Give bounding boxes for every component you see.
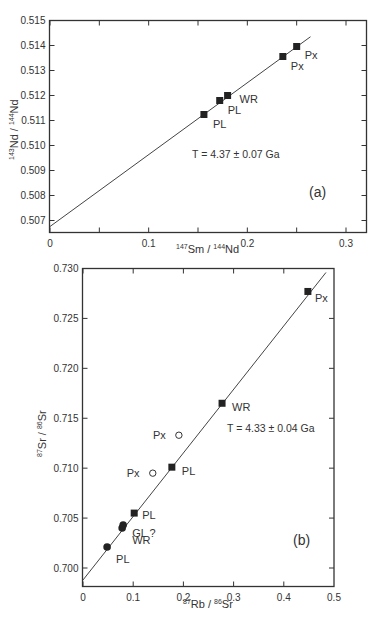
circle-marker-icon [103, 543, 111, 551]
point-label: Px [291, 60, 304, 72]
y-tick-label: 0.720 [53, 363, 78, 374]
x-tick-label: 0.1 [126, 592, 140, 603]
x-tick-label: 0 [80, 592, 86, 603]
x-label-sup2: 144 [213, 243, 225, 250]
x-tick-label: 0 [47, 238, 53, 249]
open-circle-marker-icon [150, 470, 156, 476]
isochron-line-a [50, 37, 310, 227]
age-annotation-a: T = 4.37 ± 0.07 Ga [192, 148, 280, 160]
square-marker-icon [219, 400, 226, 407]
data-point [219, 400, 226, 407]
y-tick-label: 0.725 [53, 313, 78, 324]
x-tick-label: 0.1 [142, 238, 156, 249]
panel-a: 0.5070.5080.5090.5100.5110.5120.5130.514… [8, 15, 367, 255]
y-tick-label: 0.511 [21, 115, 46, 126]
open-circle-marker-icon [176, 432, 182, 438]
y-tick-label: 0.512 [20, 90, 45, 101]
data-point [103, 543, 111, 551]
y-label-part1: Sr / [36, 429, 48, 449]
x-tick-label: 0.5 [327, 592, 341, 603]
y-axis-label-b: 87Sr / 86Sr [36, 410, 48, 457]
age-annotation-b: T = 4.33 ± 0.04 Ga [227, 422, 315, 434]
square-marker-icon [168, 464, 175, 471]
point-label: PL [228, 104, 241, 116]
panel-label-a: (a) [309, 184, 326, 200]
y-tick-label: 0.510 [20, 140, 45, 151]
x-label-part2: Sr [222, 598, 233, 610]
y-tick-label: 0.509 [20, 165, 45, 176]
y-tick-label: 0.705 [53, 513, 78, 524]
point-label: Px [305, 49, 318, 61]
y-axis-label-a: 143Nd / 144Nd [8, 99, 20, 160]
square-marker-icon [216, 97, 223, 104]
x-label-sup1: 147 [176, 243, 188, 250]
x-axis-label-a: 147Sm / 144Nd [176, 243, 239, 255]
y-label-sup1: 87 [36, 449, 43, 457]
x-label-part2: Nd [225, 243, 239, 255]
y-label-part1: Nd / [8, 125, 20, 148]
x-tick-label: 0.4 [277, 592, 291, 603]
square-marker-icon [279, 53, 286, 60]
data-point [224, 92, 231, 99]
data-point [279, 53, 286, 60]
point-label: PL [142, 509, 155, 521]
point-label: PL [182, 465, 195, 477]
y-tick-label: 0.700 [53, 563, 78, 574]
point-label: PL [116, 553, 129, 565]
data-point [168, 464, 175, 471]
y-tick-label: 0.715 [53, 413, 78, 424]
square-marker-icon [224, 92, 231, 99]
y-label-part2: Sr [36, 410, 48, 421]
y-tick-label: 0.514 [20, 40, 45, 51]
y-label-part2: Nd [8, 99, 20, 113]
point-label: Px [153, 429, 166, 441]
point-label: Px [127, 467, 140, 479]
point-label: GL ? [132, 527, 155, 539]
data-point [176, 432, 182, 438]
data-point [216, 97, 223, 104]
y-tick-label: 0.730 [53, 263, 78, 274]
x-label-part1: Sm / [188, 243, 214, 255]
data-point [150, 470, 156, 476]
data-point [119, 521, 127, 529]
x-axis-label-b: 87Rb / 86Sr [183, 598, 233, 610]
point-label: WR [240, 93, 258, 105]
square-marker-icon [304, 288, 311, 295]
x-tick-label: 0.2 [240, 238, 254, 249]
data-point [293, 43, 300, 50]
square-marker-icon [200, 111, 207, 118]
y-axis-ticks-b: 0.7000.7050.7100.7150.7200.7250.730 [53, 263, 334, 574]
x-label-sup2: 86 [214, 598, 222, 605]
square-marker-icon [293, 43, 300, 50]
point-label: PL [213, 118, 226, 130]
plot-frame-a [50, 21, 367, 233]
panel-label-b: (b) [293, 532, 310, 548]
x-tick-label: 0.3 [339, 238, 353, 249]
data-point [131, 510, 138, 517]
y-tick-label: 0.515 [20, 15, 45, 26]
figure: 0.5070.5080.5090.5100.5110.5120.5130.514… [0, 0, 384, 628]
point-label: WR [232, 401, 250, 413]
y-label-sup2: 144 [8, 113, 15, 125]
data-points-a: PLPLWRPxPx [200, 43, 318, 130]
y-tick-label: 0.710 [53, 463, 78, 474]
panel-b: 0.7000.7050.7100.7150.7200.7250.730 00.1… [36, 263, 341, 610]
point-label: Px [315, 292, 328, 304]
circle-marker-icon [119, 521, 127, 529]
y-tick-label: 0.508 [20, 190, 45, 201]
y-tick-label: 0.507 [20, 215, 45, 226]
x-label-part1: Rb / [191, 598, 214, 610]
square-marker-icon [131, 510, 138, 517]
y-label-sup2: 86 [36, 421, 43, 429]
data-point [304, 288, 311, 295]
y-tick-label: 0.513 [20, 65, 45, 76]
x-label-sup1: 87 [183, 598, 191, 605]
data-point [200, 111, 207, 118]
y-label-sup1: 143 [8, 148, 15, 160]
